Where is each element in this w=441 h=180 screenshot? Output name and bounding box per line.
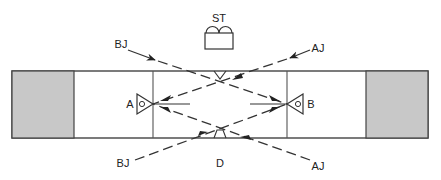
top-crossing-icon bbox=[214, 71, 226, 79]
device-b-label: B bbox=[307, 98, 314, 110]
beam-bj-top-arrow bbox=[128, 50, 155, 60]
bj-top-label: BJ bbox=[115, 38, 128, 50]
bj-bottom-label: BJ bbox=[117, 157, 130, 169]
aj-top-label: AJ bbox=[312, 42, 325, 54]
device-a-icon bbox=[137, 94, 153, 114]
arrowhead-b-upper bbox=[269, 95, 280, 101]
arrowhead-a-upper bbox=[160, 95, 171, 101]
left-block bbox=[12, 71, 74, 138]
d-label: D bbox=[216, 157, 224, 169]
st-label: ST bbox=[212, 12, 226, 24]
arrowhead-b-lower bbox=[269, 107, 280, 113]
arrowhead-top-right bbox=[232, 73, 243, 80]
device-a-label: A bbox=[126, 98, 134, 110]
device-b-icon bbox=[287, 94, 303, 114]
arrowhead-a-lower bbox=[160, 107, 171, 113]
beam-aj-top-arrow bbox=[290, 50, 310, 58]
beam-bj-top bbox=[158, 61, 287, 104]
aj-bottom-label: AJ bbox=[312, 160, 325, 172]
diagram-svg: ST A B bbox=[0, 0, 441, 180]
diagram-canvas: ST A B bbox=[0, 0, 441, 180]
st-unit-icon bbox=[205, 27, 233, 49]
beam-bj-bottom bbox=[135, 104, 287, 160]
beams bbox=[128, 50, 310, 160]
bottom-crossing-icon bbox=[214, 130, 226, 138]
right-block bbox=[366, 71, 428, 138]
